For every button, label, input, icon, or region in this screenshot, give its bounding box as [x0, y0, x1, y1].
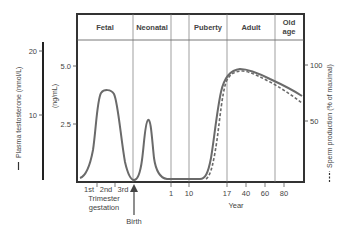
tick-year-60: 60	[261, 189, 269, 198]
tick-year-80: 80	[280, 189, 288, 198]
phase-label-puberty: Puberty	[194, 23, 223, 32]
phase-label-adult: Adult	[241, 23, 261, 32]
outer-axis-title: Plasma testosterone (nmol/L)	[15, 67, 23, 158]
right-axis-title: Sperm production (% of maximal)	[326, 64, 334, 168]
plot-frame	[77, 14, 304, 182]
inner-tick-5: 5.0	[61, 62, 71, 71]
birth-label: Birth	[126, 217, 141, 226]
tick-1st: 1st	[84, 185, 95, 194]
outer-tick-20: 20	[29, 47, 37, 56]
inner-tick-2-5: 2.5	[61, 120, 71, 129]
tick-year-40: 40	[242, 189, 250, 198]
birth-arrow-icon	[130, 184, 138, 215]
tick-year-1: 1	[169, 189, 173, 198]
testosterone-curve	[80, 69, 302, 180]
phase-label-fetal: Fetal	[96, 23, 114, 32]
phase-label-age: age	[283, 27, 296, 36]
tick-3rd: 3rd	[118, 185, 129, 194]
phase-label-neonatal: Neonatal	[136, 23, 168, 32]
right-tick-100: 100	[310, 61, 323, 70]
gestation-label: gestation	[89, 203, 119, 212]
x-axis-title: Year	[228, 201, 244, 210]
tick-year-17: 17	[223, 189, 231, 198]
tick-2nd: 2nd	[100, 185, 113, 194]
testosterone-chart: Fetal Neonatal Puberty Adult Old age 20 …	[0, 0, 350, 230]
outer-tick-10: 10	[29, 111, 37, 120]
inner-axis-title: (ng/mL)	[51, 84, 59, 108]
tick-year-10: 10	[185, 189, 193, 198]
trimester-label: Trimester	[88, 194, 120, 203]
phase-label-old: Old	[283, 18, 296, 27]
right-tick-50: 50	[310, 117, 318, 126]
